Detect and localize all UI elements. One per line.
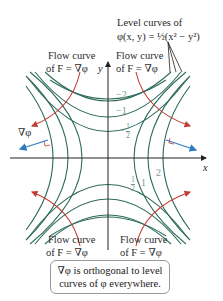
level-value-neg2: −2 bbox=[116, 90, 127, 100]
level-value-1: 1 bbox=[141, 178, 146, 188]
level-value-neg1: −1 bbox=[116, 106, 127, 116]
level-value-neghalf: 12 bbox=[126, 123, 130, 140]
y-axis-label: y bbox=[98, 63, 103, 75]
title-line1: Level curves of bbox=[117, 17, 182, 29]
note-line1: ∇φ is orthogonal to level bbox=[51, 264, 169, 277]
flow-label-bottom-right-1: Flow curve bbox=[120, 234, 168, 246]
level-value-neghalf-sign: − bbox=[119, 126, 125, 136]
flow-label-bottom-right-2: of F = ∇φ bbox=[120, 247, 162, 259]
flow-label-bottom-left-1: Flow curve bbox=[48, 234, 96, 246]
diagram-canvas bbox=[0, 0, 223, 301]
orthogonality-note: ∇φ is orthogonal to level curves of φ ev… bbox=[50, 260, 170, 294]
flow-label-top-left-2: of F = ∇φ bbox=[46, 63, 88, 75]
title-line2: φ(x, y) = ½(x² − y²) bbox=[117, 31, 200, 43]
flow-label-top-right-2: of F = ∇φ bbox=[116, 63, 158, 75]
flow-label-top-right-1: Flow curve bbox=[116, 50, 164, 62]
gradient-arrow-right bbox=[166, 140, 196, 150]
flow-label-top-left-1: Flow curve bbox=[48, 50, 96, 62]
flow-label-bottom-left-2: of F = ∇φ bbox=[46, 247, 88, 259]
note-line2: curves of φ everywhere. bbox=[51, 277, 169, 290]
x-axis-label: x bbox=[203, 162, 208, 174]
level-value-half: 12 bbox=[131, 176, 135, 193]
level-value-2: 2 bbox=[156, 168, 161, 178]
gradient-label: ∇φ bbox=[18, 127, 31, 139]
